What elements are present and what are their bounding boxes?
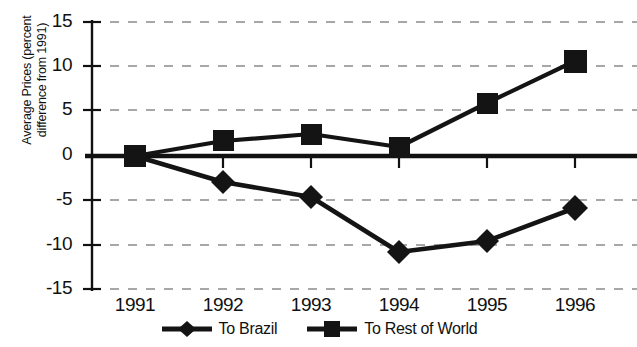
- legend-item-to-rest-of-world: To Rest of World: [305, 320, 477, 338]
- x-tick-label-1993: 1993: [276, 294, 346, 316]
- y-tick-label-0: 0: [14, 143, 72, 165]
- data-point-square-1993: [301, 124, 322, 145]
- series-line-to-brazil: [135, 156, 575, 252]
- series-markers-to-rest-of-world: [124, 50, 587, 167]
- data-point-diamond-1995: [475, 229, 499, 253]
- data-point-square-1996: [564, 50, 587, 73]
- data-point-diamond-1996: [562, 195, 588, 221]
- y-tick-label-minus10: -10: [14, 233, 72, 255]
- x-tick-label-1996: 1996: [540, 294, 610, 316]
- data-point-square-1994: [389, 137, 410, 158]
- data-point-square-1992: [213, 130, 234, 151]
- legend-label-to-rest-of-world: To Rest of World: [364, 320, 477, 338]
- x-tick-label-1995: 1995: [452, 294, 522, 316]
- chart-figure: Average Prices (percent difference from …: [0, 0, 637, 347]
- x-tick-label-1992: 1992: [188, 294, 258, 316]
- data-point-diamond-1992: [211, 170, 235, 194]
- diamond-marker-icon: [160, 320, 214, 338]
- square-marker-icon: [305, 320, 359, 338]
- y-tick-label-15: 15: [14, 10, 72, 32]
- x-tick-label-1994: 1994: [364, 294, 434, 316]
- series-line-to-rest-of-world: [135, 61, 575, 156]
- y-tick-label-5: 5: [14, 98, 72, 120]
- y-tick-label-10: 10: [14, 54, 72, 76]
- chart-legend: To Brazil To Rest of World: [0, 320, 637, 338]
- data-point-diamond-1993: [299, 185, 323, 209]
- data-point-diamond-1994: [387, 240, 411, 264]
- x-axis-ticks: [223, 157, 575, 168]
- x-tick-label-1991: 1991: [100, 294, 170, 316]
- legend-item-to-brazil: To Brazil: [160, 320, 278, 338]
- legend-label-to-brazil: To Brazil: [219, 320, 278, 338]
- data-point-square-1995: [477, 93, 498, 114]
- series-markers-to-brazil: [123, 145, 588, 264]
- y-tick-label-minus5: -5: [14, 188, 72, 210]
- y-tick-label-minus15: -15: [14, 277, 72, 299]
